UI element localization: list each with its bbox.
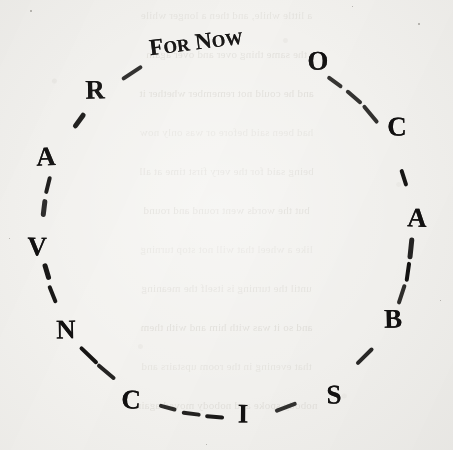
ring-dash (274, 401, 297, 413)
dashed-circle-figure: FOR NOWOCABSICNVAR (0, 0, 453, 450)
ring-dash (345, 89, 363, 105)
phrase-smallcaps-or: OR (162, 34, 190, 57)
phrase-smallcaps-ow: OW (211, 28, 244, 52)
ring-dash (44, 175, 52, 194)
figure-letter-a-9: A (36, 143, 56, 171)
ring-dash (79, 345, 99, 365)
ring-dash (41, 262, 51, 280)
figure-phrase-for-now: FOR NOW (148, 25, 244, 59)
ring-dash (72, 112, 86, 130)
figure-letter-c-1: C (387, 113, 407, 140)
scanned-page: a little while, and then a longer whilet… (0, 0, 453, 450)
ring-dash (399, 168, 408, 186)
ring-dash (361, 104, 379, 124)
ring-dash (121, 65, 143, 81)
ring-dash (96, 363, 116, 381)
figure-letter-v-8: V (27, 233, 47, 260)
figure-letter-r-10: R (85, 76, 105, 103)
ring-dash (182, 410, 201, 416)
ring-dash (47, 284, 58, 303)
ring-dash (40, 199, 47, 217)
figure-letter-n-7: N (56, 316, 76, 343)
figure-letter-i-5: I (238, 400, 249, 427)
figure-letter-a-2: A (407, 204, 427, 232)
ring-dash (159, 403, 177, 411)
ring-dash (396, 284, 407, 305)
figure-letter-o-0: O (307, 47, 328, 74)
ring-dash (205, 414, 224, 419)
figure-letter-s-4: S (326, 381, 342, 409)
figure-letter-b-3: B (384, 305, 403, 332)
ring-dash (404, 262, 410, 282)
ring-dash (355, 346, 375, 365)
ring-dash (327, 75, 343, 88)
ring-dash (408, 237, 415, 259)
figure-letter-c-6: C (121, 386, 142, 414)
